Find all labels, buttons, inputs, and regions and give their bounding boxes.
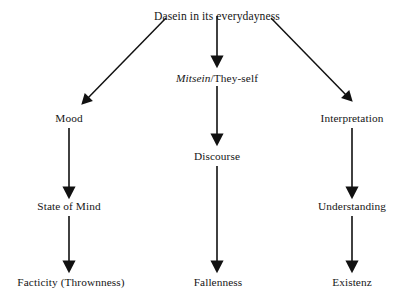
node-facticity: Facticity (Thrownness): [17, 276, 124, 289]
node-mitsein: Mitsein/They-self: [176, 72, 258, 85]
node-understanding: Understanding: [318, 200, 386, 213]
node-state-of-mind: State of Mind: [37, 200, 100, 213]
diagram-canvas: Dasein in its everydayness Mood State of…: [0, 0, 393, 303]
node-mood: Mood: [55, 112, 82, 125]
node-existenz: Existenz: [332, 276, 372, 289]
node-fallenness: Fallenness: [194, 276, 243, 289]
node-mitsein-roman-part: /They-self: [211, 72, 258, 84]
node-dasein: Dasein in its everydayness: [154, 10, 280, 23]
edge-dasein-to-mood: [86, 18, 166, 100]
node-discourse: Discourse: [194, 150, 240, 163]
node-mitsein-italic-part: Mitsein: [176, 72, 211, 84]
edge-dasein-to-interpretation: [271, 18, 348, 97]
node-interpretation: Interpretation: [321, 112, 384, 125]
